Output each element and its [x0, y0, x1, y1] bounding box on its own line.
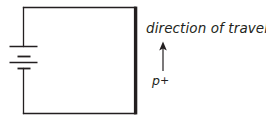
- proton-symbol: p: [152, 73, 160, 88]
- direction-of-travel-label: direction of travel: [146, 22, 266, 36]
- proton-label: p+: [152, 75, 169, 88]
- proton-charge-sign: +: [160, 74, 169, 87]
- diagram-canvas: [0, 0, 266, 124]
- circuit-diagram-figure: direction of travel p+: [0, 0, 266, 124]
